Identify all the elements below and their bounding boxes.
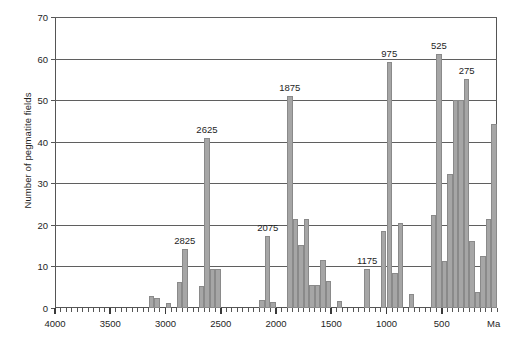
x-minor-tick-2350 bbox=[237, 308, 238, 312]
x-minor-tick-200 bbox=[474, 308, 475, 312]
x-minor-tick-0 bbox=[497, 308, 498, 312]
x-minor-tick-3700 bbox=[88, 308, 89, 312]
x-minor-tick-2150 bbox=[259, 308, 260, 312]
bar-2525ma bbox=[215, 269, 221, 308]
x-minor-tick-3050 bbox=[159, 308, 160, 312]
bar-1525ma bbox=[326, 281, 332, 308]
x-minor-tick-1150 bbox=[369, 308, 370, 312]
peak-annotation-975: 975 bbox=[381, 48, 397, 59]
x-minor-tick-1900 bbox=[287, 308, 288, 312]
x-minor-tick-1250 bbox=[358, 308, 359, 312]
x-minor-tick-2200 bbox=[253, 308, 254, 312]
y-tick-mark-30 bbox=[51, 183, 55, 184]
x-minor-tick-450 bbox=[447, 308, 448, 312]
bar-1175ma bbox=[364, 269, 370, 308]
y-tick-label-0: 0 bbox=[43, 303, 48, 314]
x-minor-tick-1750 bbox=[303, 308, 304, 312]
plot-area: 010203040506070 400035003000250020001500… bbox=[55, 17, 497, 308]
gridline-70 bbox=[55, 17, 497, 18]
x-tick-label-1000: 1000 bbox=[376, 318, 397, 329]
x-minor-tick-3750 bbox=[82, 308, 83, 312]
y-tick-label-40: 40 bbox=[37, 136, 48, 147]
x-minor-tick-1700 bbox=[309, 308, 310, 312]
x-minor-tick-250 bbox=[469, 308, 470, 312]
x-tick-label-3500: 3500 bbox=[100, 318, 121, 329]
x-minor-tick-3950 bbox=[60, 308, 61, 312]
bar-2825ma bbox=[182, 249, 188, 308]
x-minor-tick-2050 bbox=[270, 308, 271, 312]
bar-775ma bbox=[409, 294, 415, 308]
x-minor-tick-3300 bbox=[132, 308, 133, 312]
x-minor-tick-3450 bbox=[115, 308, 116, 312]
x-major-tick-3500 bbox=[109, 308, 111, 314]
x-tick-label-1500: 1500 bbox=[321, 318, 342, 329]
x-minor-tick-1950 bbox=[281, 308, 282, 312]
x-minor-tick-3550 bbox=[104, 308, 105, 312]
x-minor-tick-2600 bbox=[209, 308, 210, 312]
x-minor-tick-1400 bbox=[342, 308, 343, 312]
x-tick-label-2000: 2000 bbox=[265, 318, 286, 329]
x-minor-tick-2750 bbox=[193, 308, 194, 312]
x-minor-tick-850 bbox=[403, 308, 404, 312]
x-minor-tick-3200 bbox=[143, 308, 144, 312]
x-axis-unit-label: Ma bbox=[487, 318, 500, 329]
x-minor-tick-2100 bbox=[264, 308, 265, 312]
y-axis-line bbox=[55, 17, 56, 308]
x-tick-label-2500: 2500 bbox=[210, 318, 231, 329]
x-minor-tick-3850 bbox=[71, 308, 72, 312]
x-major-tick-1000 bbox=[386, 308, 388, 314]
peak-annotation-275: 275 bbox=[459, 65, 475, 76]
bar-975ma bbox=[387, 62, 393, 308]
gridline-50 bbox=[55, 100, 497, 101]
x-minor-tick-100 bbox=[485, 308, 486, 312]
x-minor-tick-650 bbox=[425, 308, 426, 312]
bar-1425ma bbox=[337, 301, 343, 308]
bar-2975ma bbox=[166, 303, 172, 308]
y-tick-mark-60 bbox=[51, 59, 55, 60]
x-minor-tick-1100 bbox=[375, 308, 376, 312]
x-minor-tick-2450 bbox=[226, 308, 227, 312]
x-major-tick-1500 bbox=[330, 308, 332, 314]
gridline-30 bbox=[55, 183, 497, 184]
x-minor-tick-3800 bbox=[77, 308, 78, 312]
x-tick-label-3000: 3000 bbox=[155, 318, 176, 329]
x-minor-tick-550 bbox=[436, 308, 437, 312]
x-major-tick-2000 bbox=[275, 308, 277, 314]
x-minor-tick-3250 bbox=[137, 308, 138, 312]
x-major-tick-500 bbox=[441, 308, 443, 314]
x-minor-tick-2650 bbox=[204, 308, 205, 312]
gridline-60 bbox=[55, 59, 497, 60]
bar-2025ma bbox=[270, 302, 276, 308]
x-minor-tick-3400 bbox=[121, 308, 122, 312]
x-major-tick-3000 bbox=[165, 308, 167, 314]
x-minor-tick-1200 bbox=[364, 308, 365, 312]
peak-annotation-2625: 2625 bbox=[196, 124, 217, 135]
y-tick-mark-10 bbox=[51, 266, 55, 267]
x-minor-tick-750 bbox=[414, 308, 415, 312]
y-tick-label-50: 50 bbox=[37, 95, 48, 106]
x-minor-tick-350 bbox=[458, 308, 459, 312]
x-minor-tick-950 bbox=[392, 308, 393, 312]
x-minor-tick-700 bbox=[419, 308, 420, 312]
y-tick-label-70: 70 bbox=[37, 12, 48, 23]
peak-annotation-1175: 1175 bbox=[357, 255, 377, 266]
x-minor-tick-900 bbox=[397, 308, 398, 312]
y-tick-mark-20 bbox=[51, 225, 55, 226]
x-minor-tick-2400 bbox=[231, 308, 232, 312]
y-tick-mark-70 bbox=[51, 17, 55, 18]
x-minor-tick-1350 bbox=[347, 308, 348, 312]
x-minor-tick-1800 bbox=[298, 308, 299, 312]
x-minor-tick-600 bbox=[430, 308, 431, 312]
x-minor-tick-2300 bbox=[242, 308, 243, 312]
y-axis-title: Number of pegmatite fields bbox=[22, 51, 33, 251]
x-minor-tick-2950 bbox=[171, 308, 172, 312]
bar-25ma bbox=[491, 124, 497, 308]
y-tick-label-10: 10 bbox=[37, 261, 48, 272]
peak-annotation-525: 525 bbox=[431, 40, 447, 51]
x-minor-tick-2550 bbox=[215, 308, 216, 312]
x-minor-tick-3100 bbox=[154, 308, 155, 312]
x-minor-tick-2900 bbox=[176, 308, 177, 312]
x-minor-tick-1550 bbox=[325, 308, 326, 312]
x-minor-tick-2700 bbox=[198, 308, 199, 312]
peak-annotation-2075: 2075 bbox=[257, 222, 278, 233]
